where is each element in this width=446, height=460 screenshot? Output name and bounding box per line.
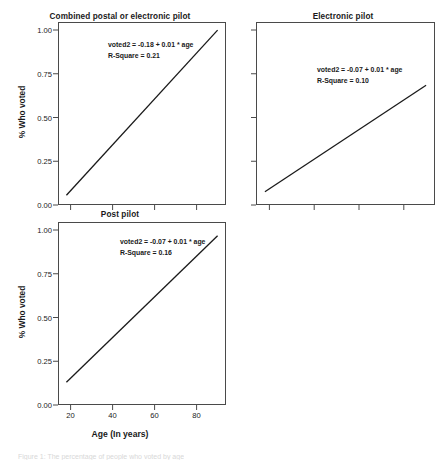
figure-caption: Figure 1: The percentage of people who v… [18,453,184,460]
regression-line [265,85,426,192]
plot-area [240,0,446,215]
x-axis-ticks [269,205,403,210]
y-axis-ticks [53,30,58,205]
plot-area [0,0,240,215]
regression-figure: Combined postal or electronic pilot 0.00… [0,0,446,460]
regression-line [66,236,217,383]
y-axis-ticks [251,30,256,205]
regression-line [66,30,217,195]
panel-electronic-pilot: Electronic pilot voted2 = -0.07 + 0.01 *… [240,0,446,215]
panel-post-pilot: Post pilot 0.00 0.25 0.50 0.75 1.00 % Wh… [0,205,240,450]
y-axis-ticks [53,230,58,405]
panel-combined-postal-or-electronic-pilot: Combined postal or electronic pilot 0.00… [0,0,240,215]
x-axis-ticks [71,405,197,410]
plot-area [0,205,240,450]
